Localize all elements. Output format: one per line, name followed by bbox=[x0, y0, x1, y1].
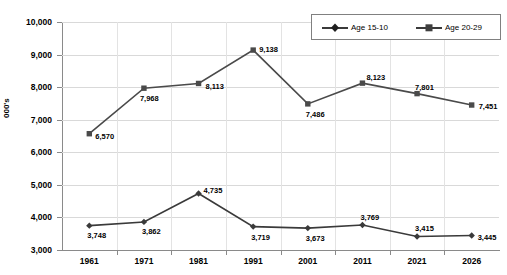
y-tick-mark bbox=[57, 250, 62, 251]
data-point-marker bbox=[359, 222, 365, 228]
data-value-label: 7,801 bbox=[415, 83, 434, 92]
data-point-marker bbox=[469, 102, 474, 107]
series-layer bbox=[62, 22, 499, 250]
y-tick-label: 4,000 bbox=[8, 212, 52, 222]
y-tick-mark bbox=[57, 55, 62, 56]
chart-legend: Age 15-10 Age 20-29 bbox=[311, 14, 501, 40]
data-point-marker bbox=[141, 219, 147, 225]
y-tick-mark bbox=[57, 217, 62, 218]
series-line bbox=[89, 50, 471, 134]
y-tick-label: 8,000 bbox=[8, 82, 52, 92]
data-value-label: 7,968 bbox=[140, 94, 159, 103]
data-value-label: 7,486 bbox=[306, 110, 325, 119]
x-tick-mark bbox=[281, 250, 282, 255]
y-tick-label: 6,000 bbox=[8, 147, 52, 157]
data-value-label: 3,673 bbox=[306, 234, 325, 243]
data-value-label: 3,748 bbox=[87, 231, 106, 240]
x-tick-label: 2026 bbox=[462, 256, 481, 266]
data-point-marker bbox=[86, 222, 92, 228]
x-tick-mark bbox=[226, 250, 227, 255]
data-point-marker bbox=[196, 81, 201, 86]
data-point-marker bbox=[87, 131, 92, 136]
x-tick-mark bbox=[444, 250, 445, 255]
y-tick-mark bbox=[57, 120, 62, 121]
data-point-marker bbox=[305, 101, 310, 106]
data-value-label: 7,451 bbox=[479, 102, 498, 111]
data-value-label: 8,113 bbox=[206, 82, 224, 91]
x-tick-label: 1981 bbox=[189, 256, 208, 266]
y-tick-mark bbox=[57, 185, 62, 186]
y-tick-label: 7,000 bbox=[8, 115, 52, 125]
x-tick-mark bbox=[335, 250, 336, 255]
x-tick-label: 2021 bbox=[408, 256, 427, 266]
data-value-label: 3,862 bbox=[142, 227, 161, 236]
y-tick-label: 3,000 bbox=[8, 245, 52, 255]
legend-item-age-20-29[interactable]: Age 20-29 bbox=[416, 21, 482, 34]
diamond-marker-icon bbox=[322, 22, 348, 33]
x-tick-mark bbox=[390, 250, 391, 255]
x-tick-label: 1991 bbox=[244, 256, 263, 266]
data-value-label: 4,735 bbox=[204, 186, 223, 195]
data-point-marker bbox=[305, 225, 311, 231]
data-value-label: 3,769 bbox=[360, 213, 379, 222]
x-tick-label: 2011 bbox=[353, 256, 371, 266]
data-value-label: 3,415 bbox=[415, 224, 434, 233]
y-tick-label: 10,000 bbox=[8, 17, 52, 27]
data-point-marker bbox=[414, 91, 419, 96]
legend-label-1: Age 20-29 bbox=[445, 23, 482, 32]
y-tick-label: 5,000 bbox=[8, 180, 52, 190]
data-value-label: 8,123 bbox=[366, 73, 385, 82]
y-tick-mark bbox=[57, 152, 62, 153]
data-value-label: 3,445 bbox=[478, 233, 497, 242]
square-marker-icon bbox=[416, 22, 442, 33]
x-tick-mark bbox=[171, 250, 172, 255]
x-tick-label: 2001 bbox=[298, 256, 317, 266]
chart-title-cropped bbox=[0, 0, 507, 8]
legend-label-0: Age 15-10 bbox=[351, 23, 388, 32]
y-tick-mark bbox=[57, 22, 62, 23]
data-value-label: 6,570 bbox=[95, 132, 114, 141]
data-point-marker bbox=[360, 80, 365, 85]
legend-item-age-15-19[interactable]: Age 15-10 bbox=[322, 21, 388, 34]
line-chart: 000's 3,7483,8624,7353,7193,6733,7693,41… bbox=[0, 0, 507, 275]
x-tick-label: 1971 bbox=[134, 256, 153, 266]
y-tick-label: 9,000 bbox=[8, 50, 52, 60]
plot-area: 3,7483,8624,7353,7193,6733,7693,4153,445… bbox=[62, 22, 499, 250]
data-value-label: 9,138 bbox=[259, 45, 278, 54]
data-value-label: 3,719 bbox=[251, 233, 270, 242]
x-tick-mark bbox=[117, 250, 118, 255]
data-point-marker bbox=[141, 85, 146, 90]
y-tick-mark bbox=[57, 87, 62, 88]
x-tick-label: 1961 bbox=[80, 256, 99, 266]
data-point-marker bbox=[468, 232, 474, 238]
data-point-marker bbox=[414, 233, 420, 239]
data-point-marker bbox=[250, 47, 255, 52]
